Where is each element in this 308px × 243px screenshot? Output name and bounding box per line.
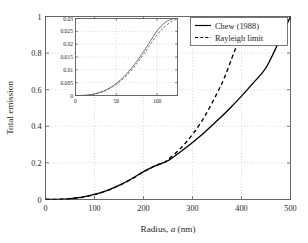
y-tick-label: 0 <box>70 93 73 99</box>
x-tick-label: 400 <box>235 204 247 213</box>
y-axis-title: Total emission <box>5 81 15 135</box>
y-tick-label: 0.015 <box>60 54 73 60</box>
x-tick-label: 0 <box>74 98 77 104</box>
legend: Chew (1988) Rayleigh limit <box>191 18 288 46</box>
x-axis-title: Radius, a (nm) <box>141 224 196 234</box>
y-tick-label: 0.2 <box>31 159 41 168</box>
chart-figure: 0100200300400500 00.20.40.60.81 Radius, … <box>0 0 308 243</box>
y-tick-label: 1 <box>37 13 41 22</box>
y-tick-label: 0.02 <box>63 41 73 47</box>
y-tick-label: 0.4 <box>31 122 41 131</box>
legend-label-rayleigh: Rayleigh limit <box>215 34 264 43</box>
y-tick-label: 0.01 <box>63 67 73 73</box>
y-tick-label: 0.8 <box>31 49 41 58</box>
y-tick-label: 0.03 <box>63 16 73 22</box>
y-tick-label: 0.6 <box>31 86 41 95</box>
y-tick-label: 0 <box>37 196 41 205</box>
x-tick-label: 200 <box>137 204 149 213</box>
x-tick-label: 100 <box>88 204 100 213</box>
x-tick-label: 500 <box>284 204 296 213</box>
x-tick-label: 50 <box>114 98 120 104</box>
chart-svg: 0100200300400500 00.20.40.60.81 Radius, … <box>0 0 308 243</box>
x-tick-label: 100 <box>153 98 162 104</box>
x-tick-label: 0 <box>43 204 47 213</box>
inset-plot: 050100 00.0050.010.0150.020.0250.03 <box>60 16 178 104</box>
y-tick-label: 0.025 <box>60 28 73 34</box>
y-tick-label: 0.005 <box>60 80 73 86</box>
legend-label-chew: Chew (1988) <box>215 22 259 31</box>
x-tick-label: 300 <box>186 204 198 213</box>
